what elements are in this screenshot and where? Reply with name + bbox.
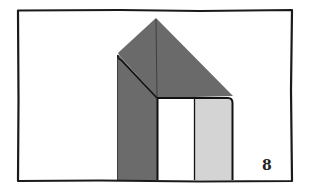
white-panel: [158, 99, 194, 180]
step-number: 8: [262, 158, 272, 172]
light-gray-panel: [195, 99, 232, 180]
origami-diagram: 8: [0, 0, 309, 191]
